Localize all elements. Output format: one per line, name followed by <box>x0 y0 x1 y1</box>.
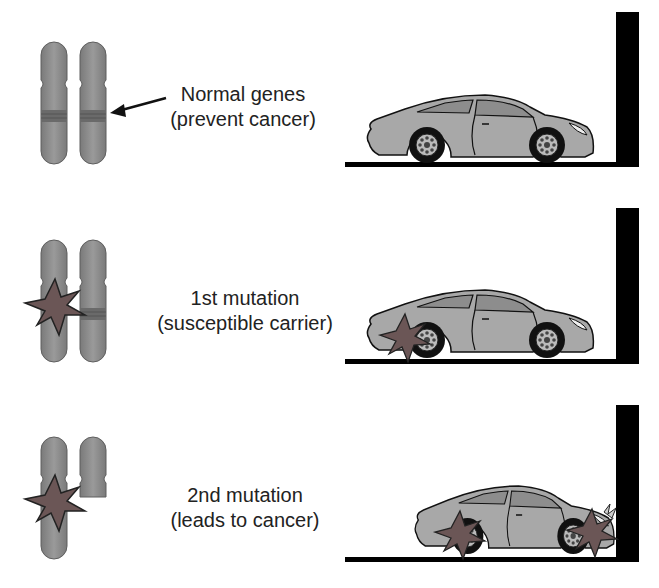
ground <box>345 162 639 167</box>
ground <box>345 359 639 364</box>
chromosome-right <box>80 42 106 164</box>
row-second-mutation <box>25 405 639 562</box>
mutation-star-icon <box>25 475 85 531</box>
car-one-damaged-wheel <box>367 290 593 362</box>
wheel-front <box>529 127 565 163</box>
label-title: Normal genes <box>168 82 318 107</box>
wheel-front <box>529 322 565 358</box>
label-subtitle: (susceptible carrier) <box>150 311 340 336</box>
label-second-mutation: 2nd mutation (leads to cancer) <box>160 483 330 533</box>
label-subtitle: (prevent cancer) <box>168 107 318 132</box>
chromosome-right <box>80 240 106 362</box>
chromosome-pair-normal <box>41 42 106 164</box>
label-title: 2nd mutation <box>160 483 330 508</box>
chromosome-pair-second-mutation <box>25 437 106 559</box>
row-normal <box>41 12 639 167</box>
wall <box>616 12 639 167</box>
wall <box>616 405 639 562</box>
label-title: 1st mutation <box>150 286 340 311</box>
chromosome-left <box>41 42 67 164</box>
mutation-star-icon <box>25 279 85 335</box>
label-normal-genes: Normal genes (prevent cancer) <box>168 82 318 132</box>
label-first-mutation: 1st mutation (susceptible carrier) <box>150 286 340 336</box>
wheel-rear <box>409 127 445 163</box>
label-subtitle: (leads to cancer) <box>160 508 330 533</box>
car-intact <box>367 95 593 163</box>
chromosome-pair-first-mutation <box>25 240 106 362</box>
chromosome-right-deleted <box>80 437 106 497</box>
wall <box>616 208 639 364</box>
arrow-icon <box>110 98 166 117</box>
